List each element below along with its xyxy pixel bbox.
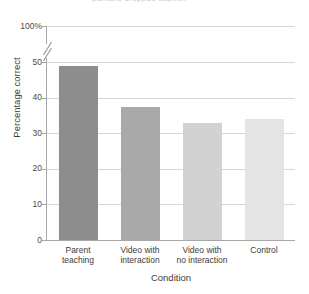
y-axis-tick — [42, 240, 47, 241]
x-axis-tick-label-line: Video with — [171, 245, 233, 255]
x-axis-tick-label-line: no interaction — [171, 255, 233, 265]
x-axis-tick-label-line: Video with — [109, 245, 171, 255]
cropped-caption-fragment: partially cropped caption — [92, 0, 297, 2]
y-axis-tick-label: 100% — [12, 22, 42, 31]
x-axis-tick-label: Parentteaching — [47, 245, 109, 265]
bar — [121, 107, 160, 241]
x-axis-title: Condition — [47, 272, 295, 283]
x-axis-line — [46, 240, 295, 241]
x-axis-tick-label-line: interaction — [109, 255, 171, 265]
x-axis-tick-label-line: teaching — [47, 255, 109, 265]
bar — [245, 119, 284, 240]
x-axis-tick-label-line: Control — [233, 245, 295, 255]
bar — [183, 123, 222, 240]
y-axis-title: Percentage correct — [11, 33, 22, 163]
x-axis-tick-label: Control — [233, 245, 295, 255]
bar — [59, 66, 98, 240]
y-axis-tick-label: 20 — [12, 164, 42, 173]
y-axis-tick-label: 10 — [12, 200, 42, 209]
y-axis-tick-label: 0 — [12, 236, 42, 245]
x-axis-tick-label: Video withno interaction — [171, 245, 233, 265]
x-axis-tick-label-line: Parent — [47, 245, 109, 255]
bar-chart-figure: partially cropped caption 01020304050100… — [0, 0, 309, 294]
plot-area — [47, 26, 295, 240]
x-axis-tick-label: Video withinteraction — [109, 245, 171, 265]
